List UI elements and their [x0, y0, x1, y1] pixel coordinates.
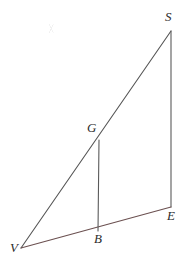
- segment-GB: [98, 140, 99, 231]
- vertex-label-v: V: [10, 241, 18, 254]
- segment-VS: [21, 31, 171, 248]
- geometry-figure: V S E B G: [0, 0, 187, 267]
- vertex-label-e: E: [167, 209, 175, 222]
- vertex-label-b: B: [94, 232, 102, 245]
- vertex-label-g: G: [87, 121, 96, 134]
- vertex-label-s: S: [165, 10, 172, 23]
